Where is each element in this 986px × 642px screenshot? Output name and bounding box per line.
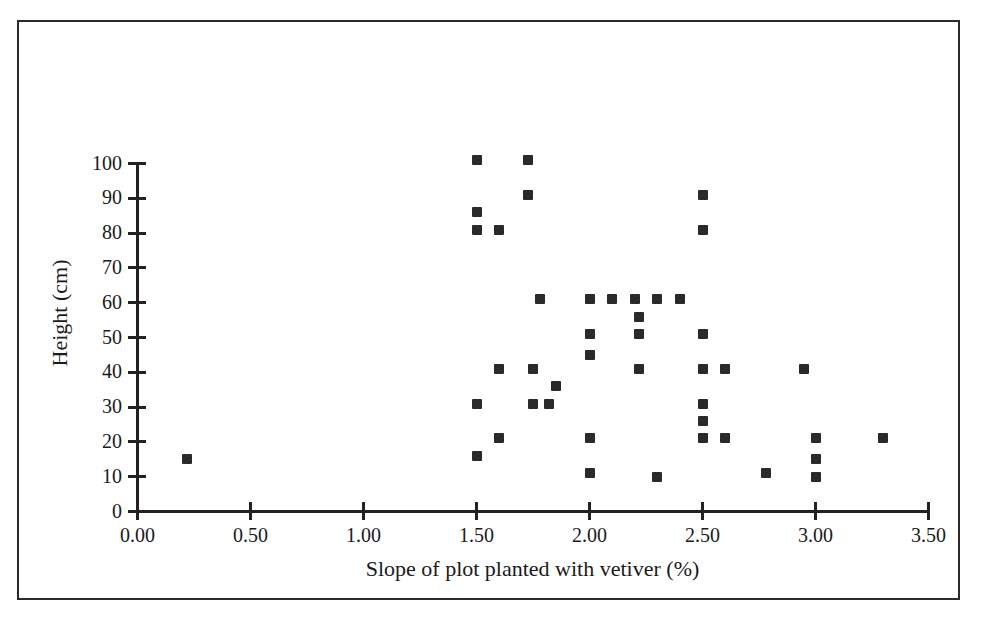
data-point — [523, 190, 533, 200]
y-tick-label-wrap: 30 — [72, 396, 122, 416]
x-tick-label-0.50: 0.50 — [211, 524, 291, 546]
data-point — [799, 364, 809, 374]
data-point — [811, 433, 821, 443]
y-tick-30 — [128, 406, 146, 409]
x-axis-line — [136, 510, 929, 513]
y-tick-label-wrap: 20 — [72, 431, 122, 451]
y-tick-label-50: 50 — [82, 327, 122, 347]
y-tick-50 — [128, 336, 146, 339]
data-point — [634, 329, 644, 339]
data-point — [720, 364, 730, 374]
x-tick-2.50 — [701, 502, 704, 520]
x-tick-label-0.00: 0.00 — [98, 524, 178, 546]
data-point — [494, 225, 504, 235]
data-point — [551, 381, 561, 391]
data-point — [472, 225, 482, 235]
data-point — [472, 207, 482, 217]
data-point — [182, 454, 192, 464]
data-point — [811, 454, 821, 464]
data-point — [630, 294, 640, 304]
data-point — [698, 399, 708, 409]
y-tick-label-60: 60 — [82, 292, 122, 312]
y-tick-70 — [128, 266, 146, 269]
x-tick-label-2.00: 2.00 — [550, 524, 630, 546]
y-tick-100 — [128, 162, 146, 165]
y-tick-label-wrap: 100 — [72, 153, 122, 173]
x-tick-label-3.50: 3.50 — [889, 524, 969, 546]
data-point — [761, 468, 771, 478]
data-point — [634, 364, 644, 374]
data-point — [544, 399, 554, 409]
x-tick-0.50 — [249, 502, 252, 520]
y-tick-label-wrap: 50 — [72, 327, 122, 347]
y-tick-90 — [128, 197, 146, 200]
x-tick-1.50 — [475, 502, 478, 520]
data-point — [585, 329, 595, 339]
y-tick-80 — [128, 232, 146, 235]
y-tick-label-wrap: 40 — [72, 361, 122, 381]
x-tick-label-1.50: 1.50 — [437, 524, 517, 546]
y-tick-label-0: 0 — [82, 501, 122, 521]
scatter-plot: Height (cm) Slope of plot planted with v… — [0, 0, 986, 642]
data-point — [675, 294, 685, 304]
y-tick-40 — [128, 371, 146, 374]
y-tick-label-20: 20 — [82, 431, 122, 451]
y-tick-label-wrap: 60 — [72, 292, 122, 312]
data-point — [585, 350, 595, 360]
x-tick-label-3.00: 3.00 — [776, 524, 856, 546]
y-tick-label-40: 40 — [82, 361, 122, 381]
y-tick-label-wrap: 90 — [72, 187, 122, 207]
data-point — [811, 472, 821, 482]
x-tick-2.00 — [588, 502, 591, 520]
data-point — [528, 399, 538, 409]
data-point — [720, 433, 730, 443]
y-tick-10 — [128, 475, 146, 478]
y-tick-label-10: 10 — [82, 466, 122, 486]
data-point — [634, 312, 644, 322]
x-tick-1.00 — [362, 502, 365, 520]
data-point — [607, 294, 617, 304]
x-tick-0.00 — [136, 502, 139, 520]
data-point — [585, 433, 595, 443]
data-point — [878, 433, 888, 443]
x-tick-3.00 — [814, 502, 817, 520]
data-point — [652, 294, 662, 304]
y-tick-label-wrap: 70 — [72, 257, 122, 277]
figure-container: Height (cm) Slope of plot planted with v… — [0, 0, 986, 642]
data-point — [652, 472, 662, 482]
data-point — [494, 433, 504, 443]
data-point — [698, 329, 708, 339]
y-axis-title: Height (cm) — [47, 213, 73, 413]
data-point — [698, 190, 708, 200]
data-point — [585, 468, 595, 478]
data-point — [698, 364, 708, 374]
y-tick-label-30: 30 — [82, 396, 122, 416]
data-point — [698, 416, 708, 426]
data-point — [698, 433, 708, 443]
x-axis-title: Slope of plot planted with vetiver (%) — [136, 556, 929, 582]
data-point — [472, 451, 482, 461]
y-tick-label-wrap: 0 — [72, 501, 122, 521]
data-point — [698, 225, 708, 235]
y-tick-label-80: 80 — [82, 222, 122, 242]
data-point — [472, 155, 482, 165]
data-point — [585, 294, 595, 304]
data-point — [523, 155, 533, 165]
y-tick-label-90: 90 — [82, 187, 122, 207]
y-tick-label-70: 70 — [82, 257, 122, 277]
y-tick-60 — [128, 301, 146, 304]
x-tick-3.50 — [927, 502, 930, 520]
y-tick-label-wrap: 10 — [72, 466, 122, 486]
x-tick-label-2.50: 2.50 — [663, 524, 743, 546]
x-tick-label-1.00: 1.00 — [324, 524, 404, 546]
y-tick-label-wrap: 80 — [72, 222, 122, 242]
y-tick-20 — [128, 440, 146, 443]
data-point — [535, 294, 545, 304]
y-tick-label-100: 100 — [82, 153, 122, 173]
data-point — [528, 364, 538, 374]
data-point — [472, 399, 482, 409]
data-point — [494, 364, 504, 374]
